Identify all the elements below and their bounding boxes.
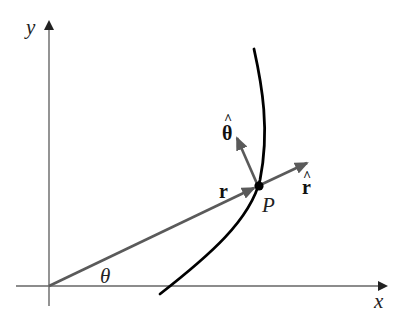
unit-vector-theta-hat [237, 138, 258, 186]
position-vector-r [49, 188, 254, 286]
position-vector-label: r [219, 180, 228, 202]
unit-vector-r-hat [258, 163, 307, 186]
theta-hat-letter: θ [222, 122, 232, 144]
angle-theta-label: θ [100, 264, 110, 288]
axes [16, 22, 386, 306]
path-curve [160, 49, 265, 294]
unit-r-hat-label: ^ r [302, 169, 311, 198]
point-p-dot [254, 181, 263, 190]
unit-theta-hat-label: ^ θ [222, 112, 232, 144]
r-hat-letter: r [302, 176, 311, 198]
x-axis-label: x [373, 289, 384, 313]
y-axis-label: y [24, 15, 36, 39]
point-p-label: P [261, 193, 275, 217]
polar-coordinates-diagram: y x θ r P ^ r ^ θ [0, 0, 403, 313]
